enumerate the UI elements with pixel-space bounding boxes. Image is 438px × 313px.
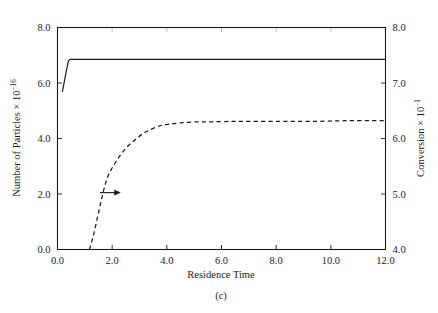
svg-text:Number of Particles × 10−16: Number of Particles × 10−16: [10, 79, 22, 197]
x-axis-title: Residence Time: [187, 269, 255, 280]
series-line-number-of-particles: [62, 59, 385, 91]
x-tick-label: 8.0: [270, 255, 283, 266]
y-axis-title-exponent: −16: [10, 79, 18, 91]
y-axis-title: Number of Particles × 10: [11, 91, 22, 197]
y2-tick-label: 8.0: [393, 22, 406, 33]
y2-axis-title: Conversion × 10: [415, 107, 426, 177]
y2-tick-label: 6.0: [393, 133, 406, 144]
axis-tick-labels: 0.02.04.06.08.010.012.00.02.04.06.08.04.…: [37, 22, 405, 265]
axis-ticks: [58, 28, 386, 250]
y2-axis-title-exponent: −1: [414, 99, 422, 107]
y2-tick-label: 4.0: [393, 244, 406, 255]
figure-container: 0.02.04.06.08.010.012.00.02.04.06.08.04.…: [0, 0, 438, 313]
y-tick-label: 2.0: [37, 189, 50, 200]
svg-text:Conversion × 10−1: Conversion × 10−1: [414, 99, 426, 177]
series-line-conversion: [89, 121, 385, 250]
y2-axis-title-group: Conversion × 10−1: [414, 99, 426, 177]
y2-tick-label: 5.0: [393, 189, 406, 200]
x-tick-label: 0.0: [51, 255, 64, 266]
y-axis-title-group: Number of Particles × 10−16: [10, 79, 22, 197]
x-tick-label: 10.0: [322, 255, 340, 266]
y-tick-label: 0.0: [37, 244, 50, 255]
plot-frame: [58, 28, 386, 250]
x-tick-label: 2.0: [106, 255, 119, 266]
y-tick-label: 8.0: [37, 22, 50, 33]
x-tick-label: 6.0: [215, 255, 228, 266]
figure-caption: (c): [215, 290, 227, 302]
y-tick-label: 6.0: [37, 78, 50, 89]
x-tick-label: 12.0: [376, 255, 394, 266]
y-tick-label: 4.0: [37, 133, 50, 144]
y2-tick-label: 7.0: [393, 78, 406, 89]
x-tick-label: 4.0: [160, 255, 173, 266]
data-series: [62, 59, 385, 249]
chart-canvas: 0.02.04.06.08.010.012.00.02.04.06.08.04.…: [0, 0, 438, 313]
